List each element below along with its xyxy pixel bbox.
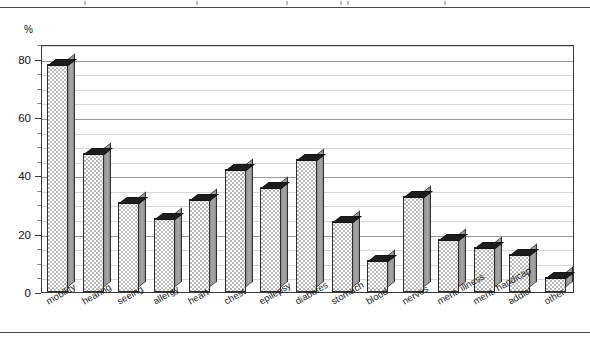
bar-stomach [332,221,353,292]
y-tick-label: 60 [0,112,31,124]
y-tick-minor [37,147,41,148]
y-tick-minor [37,264,41,265]
bar-front-face [83,153,104,292]
bar-side-face [68,54,75,287]
bar-seeing [118,202,139,292]
bar-mobility [47,64,68,292]
bar-front-face [154,218,175,292]
y-tick-label: 0 [0,287,31,299]
y-tick-label: 20 [0,229,31,241]
bar-nerves [403,196,424,292]
bar-hearing [83,153,104,292]
y-tick-minor [37,205,41,206]
y-tick-minor [37,74,41,75]
bar-front-face [332,221,353,292]
y-tick-label: 40 [0,170,31,182]
y-tick-minor [37,133,41,134]
y-tick-major [35,235,41,236]
bar-side-face [281,176,288,287]
y-tick-minor [37,249,41,250]
bar-side-face [317,149,324,287]
bar-front-face [260,187,281,292]
bar-side-face [424,185,431,287]
bar-side-face [139,191,146,287]
y-tick-minor [37,103,41,104]
y-tick-major [35,293,41,294]
plot-area [41,45,574,293]
y-tick-major [35,118,41,119]
bar-series [42,46,573,292]
bar-heart [189,199,210,292]
chart-page: % 020406080 mobilityhearingseeingallergy… [0,0,590,345]
page-rule-top [0,7,590,8]
bar-diabetes [296,159,317,292]
bar-front-face [189,199,210,292]
bar-chest [225,169,246,292]
bar-front-face [118,202,139,292]
bar-allergy [154,218,175,292]
bar-front-face [296,159,317,292]
y-tick-minor [37,45,41,46]
bar-epilepsy [260,187,281,292]
y-tick-minor [37,162,41,163]
bar-front-face [225,169,246,292]
y-tick-major [35,176,41,177]
y-tick-minor [37,89,41,90]
y-axis-unit-label: % [24,24,33,35]
bar-side-face [246,159,253,287]
y-tick-major [35,60,41,61]
bar-side-face [210,188,217,287]
y-tick-minor [37,220,41,221]
cropped-text-descenders [0,0,590,6]
y-tick-minor [37,278,41,279]
bar-front-face [47,64,68,292]
bar-front-face [403,196,424,292]
y-tick-label: 80 [0,54,31,66]
bar-side-face [104,143,111,287]
y-tick-minor [37,191,41,192]
x-axis-labels: mobilityhearingseeingallergyheartchestep… [41,297,574,345]
